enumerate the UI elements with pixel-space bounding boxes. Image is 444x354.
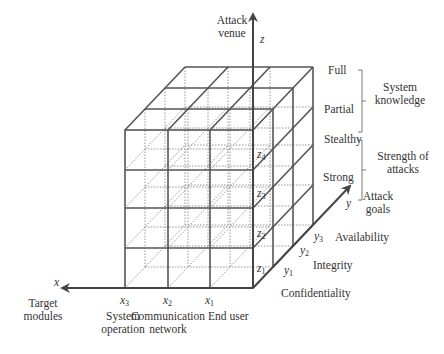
y-axis-symbol: y [346,197,351,210]
x-axis-symbol: x [54,276,59,289]
y-tick-2: y2 [300,244,309,260]
y-tick-1: y1 [284,264,293,280]
y-label-availability: Availability [335,231,389,244]
z-tick-2: z2 [257,227,265,243]
strength-title: Strength of attacks [368,150,438,176]
x-tick-3: x3 [120,294,129,310]
knowledge-partial: Partial [324,103,354,116]
x-tick-2: x2 [163,294,172,310]
z-axis-symbol: z [260,33,264,46]
strength-stealthy: Stealthy [324,133,362,146]
y-axis-title: Attack goals [356,190,400,216]
knowledge-full: Full [328,64,347,77]
y-tick-3: y3 [314,230,323,246]
x-axis-title: Target modules [18,297,68,323]
z-tick-3: z3 [257,187,265,203]
z-tick-4: z4 [257,148,265,164]
strength-strong: Strong [323,171,354,184]
y-label-integrity: Integrity [313,259,353,272]
knowledge-title: System knowledge [368,81,432,107]
y-label-confidentiality: Confidentiality [281,287,351,300]
x-label-end-user: End user [208,310,249,323]
knowledge-bracket [358,70,366,132]
x-label-communication-network: Communication network [130,310,206,336]
z-tick-1: z1 [257,262,265,278]
z-axis-title: Attack venue [212,14,252,40]
x-tick-1: x1 [205,294,214,310]
